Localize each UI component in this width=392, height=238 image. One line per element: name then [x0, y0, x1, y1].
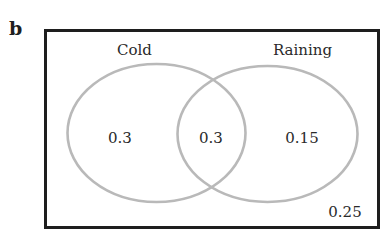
- region-value-raining-only: 0.15: [285, 129, 318, 147]
- venn-diagram: Cold Raining 0.3 0.3 0.15 0.25: [0, 0, 392, 238]
- region-value-intersection: 0.3: [199, 129, 223, 147]
- set-label-cold: Cold: [117, 41, 152, 59]
- set-label-raining: Raining: [273, 41, 332, 59]
- region-value-outside: 0.25: [328, 203, 361, 221]
- region-value-cold-only: 0.3: [108, 129, 132, 147]
